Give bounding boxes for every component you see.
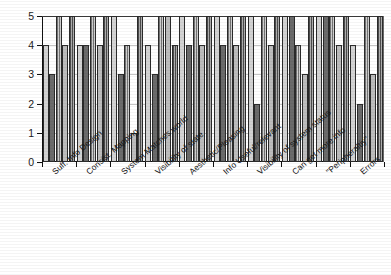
bar-chart: 012345 Suff. Info DesignConsist. Mapping…: [0, 0, 391, 275]
bar: [302, 74, 308, 162]
bar: [377, 16, 383, 162]
bar: [97, 45, 103, 162]
bar: [43, 45, 49, 162]
bar: [308, 16, 314, 162]
plot-area: 012345 Suff. Info DesignConsist. Mapping…: [42, 16, 384, 162]
bar: [274, 16, 280, 162]
bar: [56, 16, 62, 162]
y-axis-tick-label: 1: [28, 127, 34, 139]
x-axis-tick: [213, 162, 214, 167]
x-axis-tick: [384, 162, 385, 167]
x-axis-tick: [179, 162, 180, 167]
bar: [199, 45, 205, 162]
bar: [336, 45, 342, 162]
bar: [268, 45, 274, 162]
bar: [103, 16, 109, 162]
x-axis-tick: [42, 162, 43, 167]
bar: [206, 16, 212, 162]
x-axis-tick: [316, 162, 317, 167]
bar: [62, 45, 68, 162]
x-axis-tick: [247, 162, 248, 167]
bar: [172, 45, 178, 162]
x-axis-tick: [281, 162, 282, 167]
x-axis-tick: [110, 162, 111, 167]
y-axis-tick-label: 2: [28, 98, 34, 110]
y-axis-tick-label: 0: [28, 156, 34, 168]
bar: [240, 16, 246, 162]
bar: [69, 16, 75, 162]
x-axis-tick: [145, 162, 146, 167]
bar: [254, 104, 260, 162]
y-axis-tick-label: 5: [28, 10, 34, 22]
x-axis-tick: [350, 162, 351, 167]
y-axis-tick-label: 3: [28, 68, 34, 80]
bar: [357, 104, 363, 162]
bar: [49, 74, 55, 162]
bar: [233, 45, 239, 162]
bar: [370, 74, 376, 162]
bar: [343, 16, 349, 162]
x-axis-tick: [76, 162, 77, 167]
y-axis-tick-label: 4: [28, 39, 34, 51]
bar-group: [42, 16, 76, 162]
bar: [137, 16, 143, 162]
